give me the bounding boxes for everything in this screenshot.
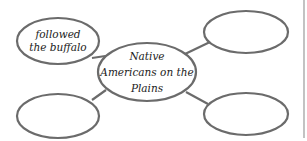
- node-top-left-line-2: the buffalo: [29, 41, 86, 53]
- connector-bottom-right: [186, 92, 208, 104]
- node-bottom-right: [204, 93, 288, 135]
- center-line-3: Plains: [130, 82, 164, 94]
- concept-web-diagram: followed the buffalo Native Americans on…: [0, 0, 307, 141]
- center-line-1: Native: [128, 50, 164, 62]
- connector-top-right: [185, 42, 210, 54]
- node-top-left-line-1: followed: [34, 28, 80, 40]
- center-line-2: Americans on the: [99, 66, 193, 78]
- node-top-left: followed the buffalo: [17, 18, 99, 64]
- node-bottom-left: [17, 94, 99, 138]
- node-center: Native Americans on the Plains: [98, 43, 196, 101]
- connector-bottom-left: [92, 90, 106, 100]
- node-top-right: [204, 11, 288, 53]
